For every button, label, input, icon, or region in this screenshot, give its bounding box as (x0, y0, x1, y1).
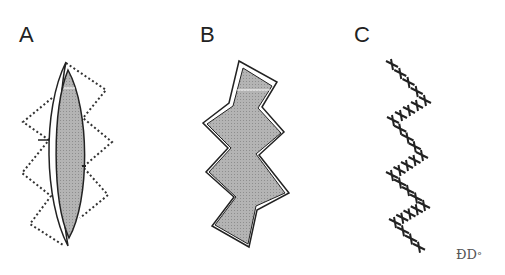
figure-illustration (0, 0, 505, 275)
panel-c-sutures (386, 59, 431, 253)
signature: ÐD° (456, 247, 482, 262)
signature-dot: ° (477, 250, 482, 261)
panel-a-drawing (22, 62, 112, 246)
signature-mark: ÐD (456, 247, 477, 262)
panel-b-drawing (203, 61, 289, 247)
